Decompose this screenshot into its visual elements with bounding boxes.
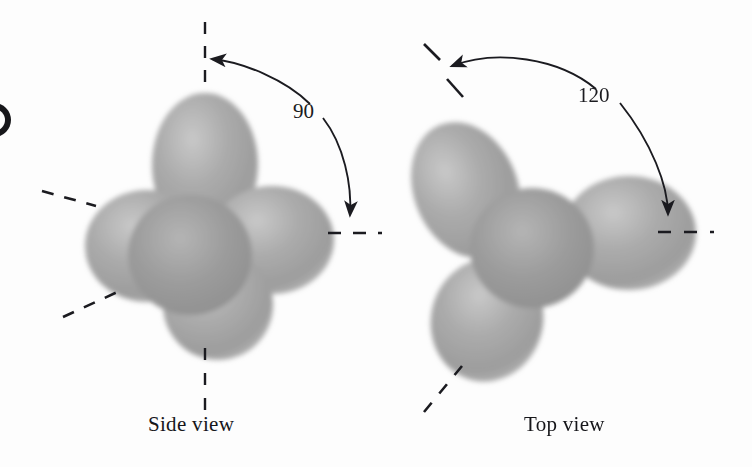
- axis-diagonal-lower-left: [424, 366, 462, 412]
- axis-diagonal-upper-left: [42, 191, 96, 206]
- panel-side-view: [42, 22, 382, 418]
- angle-arc-90-lower: [323, 118, 350, 215]
- axis-diagonal-lower-left: [63, 289, 124, 317]
- angle-label-90: 90: [293, 99, 314, 124]
- side-view-lobes: [85, 93, 334, 360]
- panel-top-view: [392, 44, 714, 412]
- axis-diagonal-upper-left-lower: [447, 79, 463, 97]
- figure-canvas: 90 120 Side view Top view: [0, 0, 752, 467]
- angle-label-120: 120: [578, 83, 610, 108]
- orbital-diagram-svg: [0, 0, 752, 467]
- angle-arc-120-upper: [452, 58, 596, 89]
- lobe-center: [470, 188, 594, 308]
- angle-arc-90-upper: [212, 59, 310, 104]
- page-edge-marker: [0, 103, 11, 137]
- caption-side-view: Side view: [148, 412, 234, 437]
- axis-diagonal-upper-left: [424, 44, 440, 60]
- caption-top-view: Top view: [524, 412, 605, 437]
- lobe-center: [128, 195, 252, 315]
